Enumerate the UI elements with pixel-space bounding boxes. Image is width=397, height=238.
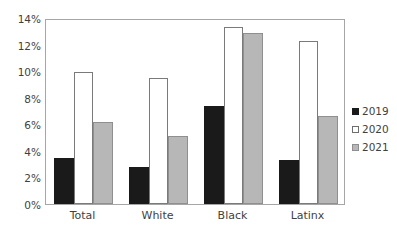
bar-group — [54, 20, 113, 204]
bar-white-2021[interactable] — [168, 136, 188, 204]
bar-group — [279, 20, 338, 204]
bar-black-2021[interactable] — [243, 33, 263, 204]
legend-item-2021[interactable]: 2021 — [352, 139, 397, 155]
legend-label: 2020 — [362, 124, 389, 135]
y-axis-tick-label: 4% — [0, 147, 41, 157]
x-axis: TotalWhiteBlackLatinx — [45, 209, 345, 227]
legend-swatch-icon-2021 — [352, 144, 359, 151]
plot-area — [45, 19, 345, 205]
bar-chart-figure: 0%2%4%6%8%10%12%14% TotalWhiteBlackLatin… — [0, 0, 397, 238]
bar-latinx-2021[interactable] — [318, 116, 338, 204]
bars-layer — [46, 20, 344, 204]
legend-label: 2021 — [362, 142, 389, 153]
legend-item-2020[interactable]: 2020 — [352, 121, 397, 137]
bar-total-2021[interactable] — [93, 122, 113, 204]
y-axis-tick-label: 2% — [0, 173, 41, 183]
bar-latinx-2019[interactable] — [279, 160, 299, 204]
bar-white-2020[interactable] — [149, 78, 169, 204]
chart-legend: 201920202021 — [352, 103, 397, 157]
y-axis-tick-label: 8% — [0, 94, 41, 104]
bar-white-2019[interactable] — [129, 167, 149, 204]
x-axis-label-latinx: Latinx — [270, 209, 345, 223]
y-axis-tick-label: 6% — [0, 120, 41, 130]
legend-item-2019[interactable]: 2019 — [352, 103, 397, 119]
y-axis-tick-label: 14% — [0, 14, 41, 24]
clipped-caption — [6, 232, 391, 238]
y-axis-tick-label: 0% — [0, 200, 41, 210]
y-axis-tick-label: 10% — [0, 67, 41, 77]
legend-swatch-icon-2020 — [352, 126, 359, 133]
bar-black-2020[interactable] — [224, 27, 244, 204]
legend-swatch-icon-2019 — [352, 108, 359, 115]
bar-total-2019[interactable] — [54, 158, 74, 205]
bar-black-2019[interactable] — [204, 106, 224, 204]
bar-group — [204, 20, 263, 204]
bar-group — [129, 20, 188, 204]
x-axis-label-black: Black — [195, 209, 270, 223]
y-axis-tick-label: 12% — [0, 41, 41, 51]
bar-latinx-2020[interactable] — [299, 41, 319, 204]
legend-label: 2019 — [362, 106, 389, 117]
bar-total-2020[interactable] — [74, 72, 94, 204]
x-axis-label-total: Total — [45, 209, 120, 223]
x-axis-label-white: White — [120, 209, 195, 223]
y-axis: 0%2%4%6%8%10%12%14% — [0, 19, 41, 205]
